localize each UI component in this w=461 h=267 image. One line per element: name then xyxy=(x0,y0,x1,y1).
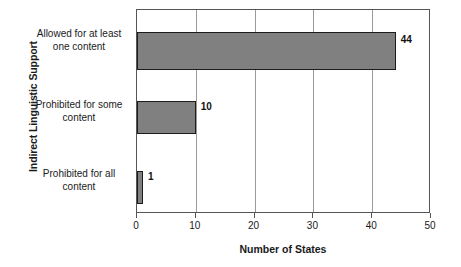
category-label-2: Prohibited for all content xyxy=(26,168,132,193)
x-tick-label-50: 50 xyxy=(424,220,435,231)
x-tick-30 xyxy=(312,213,313,218)
category-label-1: Prohibited for some content xyxy=(26,99,132,124)
x-tick-label-30: 30 xyxy=(307,220,318,231)
x-tick-40 xyxy=(371,213,372,218)
category-label-1-line-0: Prohibited for some xyxy=(26,99,132,112)
x-tick-20 xyxy=(254,213,255,218)
bar-0[interactable] xyxy=(137,32,396,70)
x-tick-50 xyxy=(430,213,431,218)
category-label-2-line-0: Prohibited for all xyxy=(26,168,132,181)
bar-value-label-1: 10 xyxy=(201,101,212,112)
x-axis-title: Number of States xyxy=(136,243,430,255)
category-label-0-line-0: Allowed for at least xyxy=(26,28,132,41)
x-tick-label-0: 0 xyxy=(133,220,139,231)
category-label-0-line-1: one content xyxy=(26,41,132,54)
x-axis: 01020304050 xyxy=(136,213,430,243)
x-tick-0 xyxy=(136,213,137,218)
bar-1[interactable] xyxy=(137,101,196,134)
x-tick-label-20: 20 xyxy=(248,220,259,231)
bar-chart: Indirect Linguistic Support Allowed for … xyxy=(0,0,461,267)
x-tick-10 xyxy=(195,213,196,218)
x-tick-label-10: 10 xyxy=(189,220,200,231)
bar-2[interactable] xyxy=(137,171,143,204)
x-tick-label-40: 40 xyxy=(366,220,377,231)
bar-value-label-2: 1 xyxy=(148,171,154,182)
bar-value-label-0: 44 xyxy=(401,34,412,45)
category-label-1-line-1: content xyxy=(26,112,132,125)
category-label-2-line-1: content xyxy=(26,181,132,194)
plot-area xyxy=(136,9,430,213)
y-axis-category-labels: Allowed for at least one content Prohibi… xyxy=(26,8,132,213)
category-label-0: Allowed for at least one content xyxy=(26,28,132,53)
